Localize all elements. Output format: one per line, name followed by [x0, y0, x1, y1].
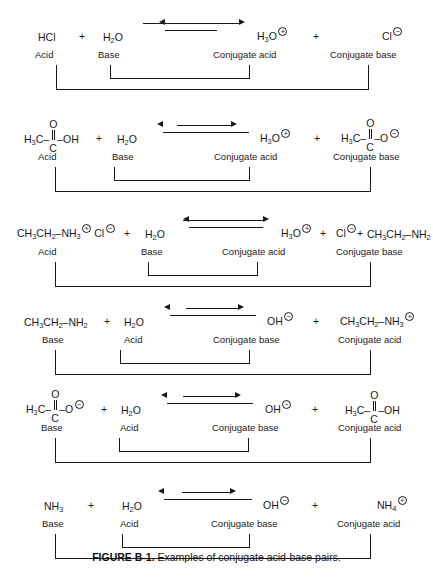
reaction-acetic-acid-water: H3C–OC–OH + H2O H3O+ + H3C–OC–O− Acid Ba [0, 110, 433, 195]
role-labels: Acid Base Conjugate acid Conjugate base [0, 48, 433, 64]
negative-charge-icon: − [284, 312, 293, 321]
role-conjugate-base: Conjugate base [213, 333, 280, 347]
positive-charge-icon: + [398, 496, 407, 505]
conjugate-pair-brackets [0, 350, 433, 378]
species-water: H2O [103, 32, 123, 43]
formula-row: CH3CH2–NH2 + H2O OH− + CH3CH2–NH3+ [0, 293, 433, 327]
positive-charge-icon: + [405, 312, 414, 321]
role-conjugate-acid: Conjugate acid [222, 245, 285, 259]
reaction-acetate-water: H3C–OC–O− + H2O OH− + H3C–OC–OH Base Aci [0, 381, 433, 466]
positive-charge-icon: + [281, 129, 290, 138]
figure-caption-label: FIGURE B-1. [92, 551, 154, 563]
species-ethylamine: CH3CH2–NH2 [24, 317, 88, 328]
role-labels: Acid Base Conjugate acid Conjugate base [0, 245, 433, 261]
formula-row: NH3 + H2O OH− + NH4+ [0, 477, 433, 511]
positive-charge-icon: + [278, 27, 287, 36]
species-water: H2O [145, 229, 165, 240]
species-acetic-acid: H3C–OC–OH [345, 405, 400, 416]
role-conjugate-acid: Conjugate acid [213, 48, 276, 62]
reaction-hcl-water: HCl + H2O H3O+ + Cl− Acid Base Con [0, 8, 433, 93]
role-conjugate-base: Conjugate base [211, 517, 278, 531]
species-water: H2O [124, 317, 144, 328]
reaction-ethylamine-water: CH3CH2–NH2 + H2O OH− + CH3CH2–NH3+ Base [0, 293, 433, 378]
conjugate-pair-brackets [0, 167, 433, 195]
negative-charge-icon: − [390, 129, 399, 138]
figure-conjugate-acid-base-pairs: HCl + H2O H3O+ + Cl− Acid Base Con [0, 0, 433, 579]
role-base: Base [112, 150, 134, 164]
equilibrium-arrow [155, 124, 253, 140]
plus-separator: + [357, 227, 363, 239]
plus-separator: + [88, 499, 94, 511]
role-base: Base [42, 517, 64, 531]
species-hydroxide: OH− [265, 404, 291, 415]
reaction-ethylammonium-chloride-water: CH3CH2–NH3+Cl− + H2O H3O+ + Cl− + CH3CH2… [0, 205, 433, 290]
bracket-outer-acid-conjugate-base [56, 65, 369, 90]
plus-separator: + [313, 315, 319, 327]
plus-separator: + [79, 30, 85, 42]
role-labels: Base Acid Conjugate base Conjugate acid [0, 517, 433, 533]
formula-row: H3C–OC–OH + H2O H3O+ + H3C–OC–O− [0, 110, 433, 144]
plus-separator: + [124, 227, 130, 239]
equilibrium-arrow [159, 395, 257, 411]
role-labels: Acid Base Conjugate acid Conjugate base [0, 150, 433, 166]
species-acetic-acid: H3C–OC–OH [24, 134, 79, 145]
species-hydroxide: OH− [263, 500, 289, 511]
negative-charge-icon: − [106, 224, 115, 233]
role-conjugate-acid: Conjugate acid [338, 421, 401, 435]
role-conjugate-acid: Conjugate acid [337, 517, 400, 531]
plus-separator: + [104, 315, 110, 327]
bracket-outer-base-conjugate-acid [55, 438, 371, 463]
role-acid: Acid [120, 421, 138, 435]
species-ammonia: NH3 [44, 501, 63, 512]
formula-row: HCl + H2O H3O+ + Cl− [0, 8, 433, 42]
figure-caption-text: Examples of conjugate acid-base pairs. [155, 551, 341, 563]
role-conjugate-base: Conjugate base [330, 48, 397, 62]
role-base: Base [42, 333, 64, 347]
species-hcl: HCl [38, 32, 56, 43]
role-labels: Base Acid Conjugate base Conjugate acid [0, 421, 433, 437]
role-base: Base [41, 421, 63, 435]
species-ethylamine: CH3CH2–NH2 [367, 229, 431, 240]
role-acid: Acid [124, 333, 142, 347]
plus-separator: + [101, 403, 107, 415]
role-acid: Acid [38, 245, 56, 259]
species-water: H2O [117, 134, 137, 145]
species-hydronium: H3O+ [281, 228, 311, 239]
conjugate-pair-brackets [0, 262, 433, 290]
plus-separator: + [312, 499, 318, 511]
negative-charge-icon: − [280, 496, 289, 505]
negative-charge-icon: − [347, 224, 356, 233]
plus-separator: + [96, 132, 102, 144]
role-conjugate-base: Conjugate base [333, 150, 400, 164]
equilibrium-arrow [156, 491, 256, 507]
positive-charge-icon: + [302, 224, 311, 233]
species-hydronium: H3O+ [257, 31, 287, 42]
plus-separator: + [320, 227, 326, 239]
species-chloride: Cl− [382, 31, 402, 42]
positive-charge-icon: + [82, 224, 91, 233]
equilibrium-arrow [143, 22, 245, 38]
species-ethylammonium: CH3CH2–NH3+ [340, 316, 414, 327]
formula-row: CH3CH2–NH3+Cl− + H2O H3O+ + Cl− + CH3CH2… [0, 205, 433, 239]
species-chloride: Cl− [336, 228, 356, 239]
species-ethylammonium-chloride: CH3CH2–NH3+Cl− [17, 228, 115, 239]
role-base: Base [98, 48, 120, 62]
bracket-outer-acid-conjugate-base [55, 262, 371, 287]
species-hydronium: H3O+ [260, 133, 290, 144]
species-ammonium: NH4+ [377, 500, 407, 511]
formula-row: H3C–OC–O− + H2O OH− + H3C–OC–OH [0, 381, 433, 415]
equilibrium-arrow [183, 219, 269, 235]
role-conjugate-acid: Conjugate acid [338, 333, 401, 347]
species-acetate: H3C–OC–O− [341, 133, 399, 144]
role-acid: Acid [120, 517, 138, 531]
role-base: Base [141, 245, 163, 259]
species-hydroxide: OH− [267, 316, 293, 327]
role-conjugate-base: Conjugate base [336, 245, 403, 259]
figure-caption: FIGURE B-1. Examples of conjugate acid-b… [0, 551, 433, 563]
conjugate-pair-brackets [0, 438, 433, 466]
plus-separator: + [312, 403, 318, 415]
role-conjugate-base: Conjugate base [212, 421, 279, 435]
negative-charge-icon: − [282, 400, 291, 409]
reaction-ammonia-water: NH3 + H2O OH− + NH4+ Base Acid Con [0, 477, 433, 562]
role-labels: Base Acid Conjugate base Conjugate acid [0, 333, 433, 349]
